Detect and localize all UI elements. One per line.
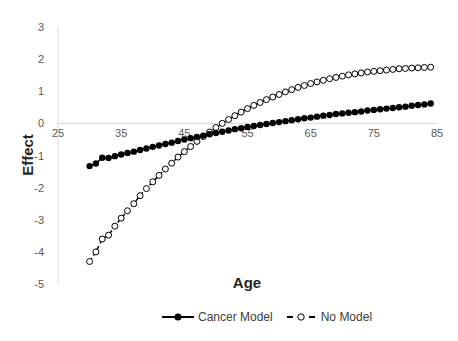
- y-tick-label: -5: [34, 278, 44, 290]
- data-point: [352, 71, 358, 77]
- data-point: [131, 201, 137, 207]
- data-point: [93, 160, 99, 166]
- data-point: [106, 232, 112, 238]
- legend-label-no-model: No Model: [321, 310, 372, 324]
- x-tick-label: 75: [368, 127, 380, 139]
- data-point: [295, 84, 301, 90]
- data-point: [326, 112, 332, 118]
- data-point: [86, 163, 92, 169]
- data-point: [352, 109, 358, 115]
- data-point: [270, 120, 276, 126]
- data-point: [175, 154, 181, 160]
- data-point: [143, 145, 149, 151]
- series-cancer-model: [86, 100, 433, 169]
- data-point: [225, 127, 231, 133]
- data-point: [427, 100, 433, 106]
- data-point: [276, 119, 282, 125]
- series-no-model: [87, 64, 434, 264]
- data-point: [118, 151, 124, 157]
- legend: Cancer Model No Model: [160, 307, 382, 327]
- data-point: [93, 249, 99, 255]
- x-tick-label: 35: [115, 127, 127, 139]
- data-point: [181, 136, 187, 142]
- data-point: [377, 68, 383, 74]
- data-point: [200, 132, 206, 138]
- data-point: [162, 141, 168, 147]
- data-point: [194, 134, 200, 140]
- data-point: [169, 139, 175, 145]
- data-point: [377, 106, 383, 112]
- data-point: [295, 116, 301, 122]
- data-point: [263, 97, 269, 103]
- data-point: [346, 72, 352, 78]
- data-point: [162, 166, 168, 172]
- data-point: [365, 69, 371, 75]
- y-tick-label: 1: [38, 85, 44, 97]
- data-point: [364, 107, 370, 113]
- data-point: [99, 155, 105, 161]
- y-axis-title: Effect: [19, 134, 36, 176]
- data-point: [333, 111, 339, 117]
- data-point: [301, 115, 307, 121]
- data-point: [327, 76, 333, 82]
- data-point: [213, 125, 219, 131]
- filled-circle-line-icon: [160, 311, 196, 323]
- y-tick-label: 3: [38, 21, 44, 33]
- data-point: [320, 112, 326, 118]
- legend-label-cancer-model: Cancer Model: [198, 310, 273, 324]
- data-point: [289, 117, 295, 123]
- data-point: [156, 142, 162, 148]
- data-point: [187, 135, 193, 141]
- data-point: [156, 172, 162, 178]
- data-point: [213, 130, 219, 136]
- data-point: [175, 138, 181, 144]
- data-point: [188, 144, 194, 150]
- data-point: [263, 121, 269, 127]
- data-point: [421, 101, 427, 107]
- data-point: [169, 160, 175, 166]
- data-point: [270, 94, 276, 100]
- x-tick-label: 65: [305, 127, 317, 139]
- data-point: [282, 118, 288, 124]
- data-point: [238, 125, 244, 131]
- data-point: [112, 223, 118, 229]
- data-point: [124, 150, 130, 156]
- data-point: [428, 64, 434, 70]
- data-point: [345, 110, 351, 116]
- data-point: [371, 107, 377, 113]
- data-point: [415, 65, 421, 71]
- legend-item-no-model: No Model: [283, 310, 372, 324]
- data-point: [150, 179, 156, 185]
- data-point: [226, 117, 232, 123]
- data-point: [358, 108, 364, 114]
- data-point: [105, 155, 111, 161]
- data-point: [358, 70, 364, 76]
- data-point: [396, 66, 402, 72]
- data-point: [339, 73, 345, 79]
- data-point: [402, 103, 408, 109]
- x-axis-title: Age: [233, 274, 261, 291]
- data-point: [390, 66, 396, 72]
- data-point: [232, 126, 238, 132]
- data-point: [181, 149, 187, 155]
- data-point: [289, 87, 295, 93]
- data-point: [150, 144, 156, 150]
- x-tick-label: 85: [431, 127, 443, 139]
- data-point: [118, 215, 124, 221]
- data-point: [390, 105, 396, 111]
- data-point: [307, 114, 313, 120]
- data-point: [219, 120, 225, 126]
- data-point: [282, 89, 288, 95]
- data-point: [383, 105, 389, 111]
- data-point: [320, 77, 326, 83]
- chart-canvas: 3210-1-2-3-4-525354555657585 Age Effect: [0, 0, 458, 341]
- y-tick-label: -4: [34, 246, 44, 258]
- data-point: [402, 65, 408, 71]
- data-point: [276, 91, 282, 97]
- y-tick-label: 2: [38, 53, 44, 65]
- data-point: [257, 99, 263, 105]
- data-point: [301, 82, 307, 88]
- data-point: [232, 113, 238, 119]
- data-point: [143, 186, 149, 192]
- data-point: [137, 147, 143, 153]
